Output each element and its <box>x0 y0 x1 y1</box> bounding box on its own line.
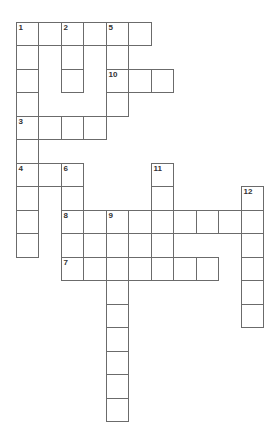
clue-number: 1 <box>19 24 23 32</box>
crossword-cell[interactable] <box>106 374 130 399</box>
crossword-cell[interactable] <box>16 233 40 258</box>
crossword-cell[interactable] <box>16 139 40 164</box>
crossword-cell[interactable] <box>106 351 130 376</box>
crossword-cell[interactable] <box>128 69 152 94</box>
crossword-cell[interactable] <box>106 398 130 423</box>
clue-number: 10 <box>109 71 118 79</box>
crossword-cell[interactable] <box>38 163 62 188</box>
crossword-cell[interactable] <box>218 210 242 235</box>
crossword-cell[interactable]: 4 <box>16 163 40 188</box>
crossword-cell[interactable] <box>83 22 107 47</box>
crossword-cell[interactable] <box>128 210 152 235</box>
crossword-cell[interactable] <box>241 210 265 235</box>
crossword-cell[interactable] <box>241 304 265 329</box>
clue-number: 6 <box>64 165 68 173</box>
crossword-cell[interactable]: 1 <box>16 22 40 47</box>
crossword-cell[interactable]: 6 <box>61 163 85 188</box>
clue-number: 4 <box>19 165 23 173</box>
crossword-cell[interactable] <box>61 69 85 94</box>
crossword-cell[interactable] <box>106 257 130 282</box>
crossword-cell[interactable] <box>61 186 85 211</box>
crossword-cell[interactable] <box>106 92 130 117</box>
crossword-cell[interactable] <box>83 210 107 235</box>
crossword-cell[interactable] <box>61 233 85 258</box>
crossword-cell[interactable]: 8 <box>61 210 85 235</box>
clue-number: 2 <box>64 24 68 32</box>
clue-number: 7 <box>64 259 68 267</box>
crossword-cell[interactable]: 2 <box>61 22 85 47</box>
crossword-cell[interactable] <box>83 233 107 258</box>
crossword-cell[interactable] <box>16 69 40 94</box>
crossword-cell[interactable] <box>106 280 130 305</box>
clue-number: 5 <box>109 24 113 32</box>
crossword-cell[interactable] <box>83 257 107 282</box>
crossword-cell[interactable] <box>106 304 130 329</box>
crossword-cell[interactable]: 12 <box>241 186 265 211</box>
crossword-cell[interactable] <box>106 233 130 258</box>
crossword-cell[interactable] <box>128 233 152 258</box>
crossword-cell[interactable] <box>151 257 175 282</box>
crossword-cell[interactable] <box>16 45 40 70</box>
crossword-cell[interactable] <box>16 210 40 235</box>
crossword-cell[interactable] <box>173 257 197 282</box>
crossword-cell[interactable] <box>38 116 62 141</box>
crossword-cell[interactable] <box>83 116 107 141</box>
crossword-cell[interactable]: 7 <box>61 257 85 282</box>
crossword-cell[interactable] <box>241 280 265 305</box>
crossword-cell[interactable] <box>128 22 152 47</box>
clue-number: 12 <box>244 188 253 196</box>
clue-number: 3 <box>19 118 23 126</box>
crossword-cell[interactable] <box>61 116 85 141</box>
crossword-cell[interactable] <box>151 186 175 211</box>
crossword-cell[interactable] <box>241 257 265 282</box>
crossword-cell[interactable] <box>106 45 130 70</box>
crossword-cell[interactable] <box>151 210 175 235</box>
crossword-cell[interactable] <box>173 210 197 235</box>
crossword-cell[interactable]: 5 <box>106 22 130 47</box>
crossword-cell[interactable] <box>151 69 175 94</box>
crossword-cell[interactable] <box>196 257 220 282</box>
clue-number: 8 <box>64 212 68 220</box>
clue-number: 9 <box>109 212 113 220</box>
crossword-cell[interactable] <box>128 257 152 282</box>
crossword-cell[interactable] <box>16 186 40 211</box>
crossword-cell[interactable]: 10 <box>106 69 130 94</box>
crossword-cell[interactable] <box>16 92 40 117</box>
crossword-cell[interactable] <box>241 233 265 258</box>
crossword-cell[interactable]: 11 <box>151 163 175 188</box>
crossword-cell[interactable]: 9 <box>106 210 130 235</box>
crossword-cell[interactable] <box>106 327 130 352</box>
crossword-cell[interactable] <box>151 233 175 258</box>
clue-number: 11 <box>154 165 162 173</box>
crossword-cell[interactable] <box>38 22 62 47</box>
crossword-grid: 125103461112897 <box>0 0 278 444</box>
crossword-cell[interactable]: 3 <box>16 116 40 141</box>
crossword-cell[interactable] <box>196 210 220 235</box>
crossword-cell[interactable] <box>61 45 85 70</box>
